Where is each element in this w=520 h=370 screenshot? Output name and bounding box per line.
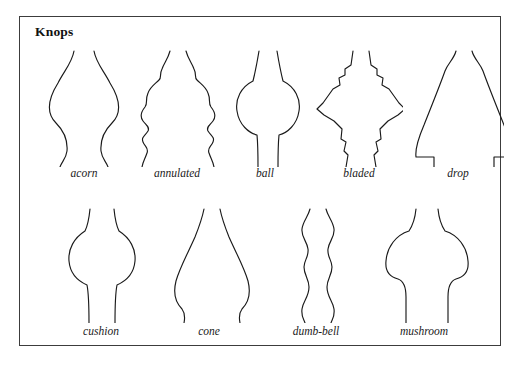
knop-left-outline [416, 51, 456, 167]
knop-profile-annulated [132, 47, 222, 167]
knop-right-outline [438, 209, 468, 323]
knop-left-outline [386, 209, 416, 323]
knop-left-outline [69, 209, 90, 323]
knop-label-mushroom: mushroom [378, 325, 470, 337]
knop-right-outline [186, 51, 215, 167]
knop-right-outline [114, 209, 135, 323]
knop-profile-cushion [58, 205, 144, 323]
knop-profile-mushroom [378, 205, 470, 323]
knop-label-acorn: acorn [42, 167, 126, 179]
knop-profile-ball [225, 47, 305, 167]
knop-left-outline [175, 209, 204, 323]
knop-figure-dumb-bell [272, 205, 360, 323]
knop-label-bladed: bladed [315, 167, 403, 179]
knop-left-outline [302, 209, 310, 323]
knop-label-annulated: annulated [132, 167, 222, 179]
knop-figure-bladed [315, 47, 403, 167]
knop-left-outline [141, 51, 170, 167]
knop-right-outline [369, 51, 403, 167]
knop-right-outline [277, 51, 299, 167]
page-title: Knops [35, 24, 74, 40]
knop-label-ball: ball [225, 167, 305, 179]
knop-left-outline [49, 51, 74, 167]
knop-figure-ball [225, 47, 305, 167]
knop-right-outline [94, 51, 119, 167]
knop-label-dumb-bell: dumb-bell [272, 325, 360, 337]
knop-right-outline [472, 51, 504, 167]
knop-figure-cone [166, 205, 252, 323]
knops-plate: Knops acornannulatedballbladeddropcushio… [19, 16, 501, 346]
knop-figure-annulated [132, 47, 222, 167]
knop-label-cushion: cushion [58, 325, 144, 337]
knop-figure-acorn [42, 47, 126, 167]
knop-left-outline [237, 51, 259, 167]
knop-profile-cone [166, 205, 252, 323]
knop-left-outline [317, 51, 353, 167]
knop-label-drop: drop [412, 167, 504, 179]
knop-right-outline [220, 209, 249, 323]
knop-figure-mushroom [378, 205, 470, 323]
knop-profile-bladed [315, 47, 403, 167]
knop-profile-dumb-bell [272, 205, 360, 323]
knop-figure-drop [412, 47, 504, 167]
knop-profile-acorn [42, 47, 126, 167]
knop-label-cone: cone [166, 325, 252, 337]
knop-figure-cushion [58, 205, 144, 323]
knop-profile-drop [412, 47, 504, 167]
knop-right-outline [326, 209, 334, 323]
